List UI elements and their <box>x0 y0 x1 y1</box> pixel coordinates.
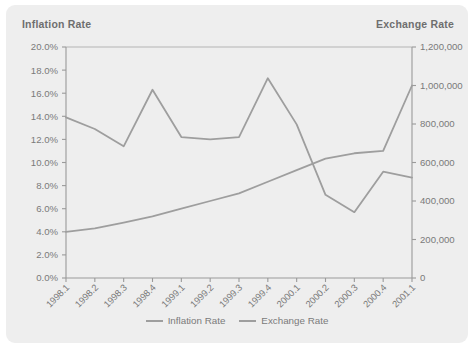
chart-panel: Inflation Rate Exchange Rate 0.0%2.0%4.0… <box>6 5 468 343</box>
left-axis-tick-label: 10.0% <box>31 157 59 168</box>
legend-swatch-inflation-rate <box>146 320 163 322</box>
x-axis-tick-label: 1998.2 <box>73 282 100 309</box>
legend-label-exchange-rate: Exchange Rate <box>261 315 328 326</box>
right-axis-tick-label: 0 <box>420 272 425 283</box>
right-axis-tick-label: 800,000 <box>420 118 455 129</box>
left-axis-tick-label: 2.0% <box>36 249 58 260</box>
chart-plot-area: 0.0%2.0%4.0%6.0%8.0%10.0%12.0%14.0%16.0%… <box>6 5 468 315</box>
left-axis-tick-label: 4.0% <box>36 226 58 237</box>
left-axis-tick-label: 18.0% <box>31 65 59 76</box>
left-axis-tick-label: 14.0% <box>31 111 59 122</box>
left-axis-tick-label: 6.0% <box>36 203 58 214</box>
legend-swatch-exchange-rate <box>239 320 256 322</box>
x-axis-tick-label: 1998.4 <box>131 282 158 309</box>
right-axis-tick-label: 400,000 <box>420 195 455 206</box>
x-axis-tick-label: 2000.3 <box>333 282 360 309</box>
left-axis-tick-label: 8.0% <box>36 180 58 191</box>
chart-legend: Inflation Rate Exchange Rate <box>6 315 468 326</box>
right-axis-tick-label: 200,000 <box>420 234 455 245</box>
x-axis-tick-label: 1999.3 <box>217 282 244 309</box>
legend-item-inflation-rate: Inflation Rate <box>146 315 226 326</box>
left-axis-tick-label: 12.0% <box>31 134 59 145</box>
x-axis: 1998.11998.21998.31998.41999.11999.21999… <box>44 278 417 310</box>
x-axis-tick-label: 1999.1 <box>160 282 187 309</box>
x-axis-tick-label: 2000.2 <box>304 282 331 309</box>
series-lines <box>66 78 412 232</box>
x-axis-tick-label: 1998.3 <box>102 282 129 309</box>
series-line-exchange-rate <box>66 86 412 232</box>
x-axis-tick-label: 2000.4 <box>361 282 388 309</box>
series-line-inflation-rate <box>66 78 412 212</box>
left-axis-tick-label: 0.0% <box>36 272 58 283</box>
x-axis-tick-label: 1999.2 <box>188 282 215 309</box>
left-axis-tick-label: 16.0% <box>31 88 59 99</box>
left-axis: 0.0%2.0%4.0%6.0%8.0%10.0%12.0%14.0%16.0%… <box>31 41 66 283</box>
x-axis-tick-label: 1998.1 <box>44 282 71 309</box>
x-axis-tick-label: 1999.4 <box>246 282 273 309</box>
x-axis-tick-label: 2001.1 <box>390 282 417 309</box>
legend-label-inflation-rate: Inflation Rate <box>168 315 226 326</box>
legend-item-exchange-rate: Exchange Rate <box>239 315 328 326</box>
right-axis: 0200,000400,000600,000800,0001,000,0001,… <box>412 41 463 283</box>
right-axis-tick-label: 600,000 <box>420 157 455 168</box>
x-axis-tick-label: 2000.1 <box>275 282 302 309</box>
left-axis-tick-label: 20.0% <box>31 41 59 52</box>
right-axis-tick-label: 1,000,000 <box>420 80 463 91</box>
right-axis-tick-label: 1,200,000 <box>420 41 463 52</box>
